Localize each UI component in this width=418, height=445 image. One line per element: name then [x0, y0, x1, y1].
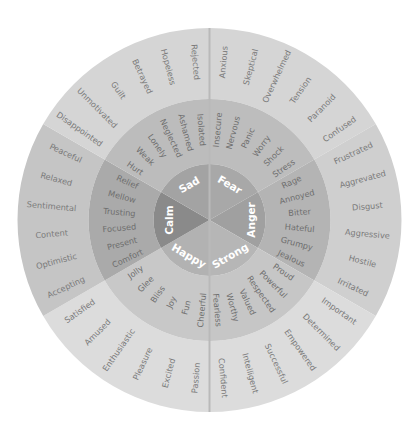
core-label-anger: Anger — [245, 201, 257, 237]
emotion-wheel: AnxiousSkepticalOverwhelmedTensionParano… — [0, 0, 418, 445]
middle-label-anger: Bitter — [288, 206, 312, 218]
core-label-calm: Calm — [163, 205, 175, 234]
